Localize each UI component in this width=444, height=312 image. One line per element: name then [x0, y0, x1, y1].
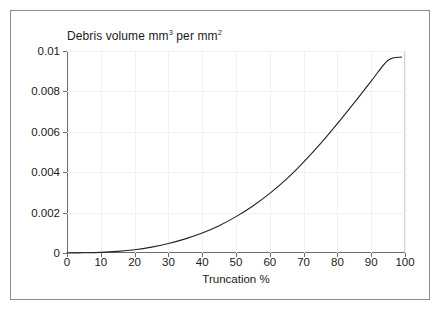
y-tick-label: 0.006	[31, 125, 60, 138]
x-tick-label: 70	[297, 256, 310, 269]
x-tick-label: 50	[230, 256, 243, 269]
y-tick-label: 0.004	[31, 166, 60, 179]
chart-title: Debris volume mm3 per mm2	[67, 29, 222, 43]
title-superscript-3: 3	[169, 28, 173, 37]
title-superscript-2: 2	[218, 28, 222, 37]
x-tick-label: 30	[162, 256, 175, 269]
x-tick-label: 100	[395, 256, 414, 269]
y-tick-label: 0.002	[31, 206, 60, 219]
gridline-vertical	[405, 51, 406, 253]
x-axis-title: Truncation %	[67, 273, 405, 285]
plot-area: Debris volume mm3 per mm2 01020304050607…	[67, 51, 405, 253]
x-tick-label: 60	[263, 256, 276, 269]
y-tick-label: 0.008	[31, 85, 60, 98]
x-tick-label: 10	[94, 256, 107, 269]
x-tick-label: 90	[365, 256, 378, 269]
x-tick-label: 0	[64, 256, 70, 269]
x-tick-label: 40	[196, 256, 209, 269]
y-tick	[63, 132, 67, 133]
y-tick	[63, 172, 67, 173]
x-tick-label: 80	[331, 256, 344, 269]
y-tick-label: 0.01	[38, 45, 60, 58]
figure-frame: Debris volume mm3 per mm2 01020304050607…	[10, 10, 430, 300]
y-tick	[63, 213, 67, 214]
y-tick-label: 0	[54, 247, 60, 260]
y-tick	[63, 51, 67, 52]
x-tick-label: 20	[128, 256, 141, 269]
data-curve	[67, 51, 405, 253]
y-tick	[63, 91, 67, 92]
y-tick	[63, 253, 67, 254]
